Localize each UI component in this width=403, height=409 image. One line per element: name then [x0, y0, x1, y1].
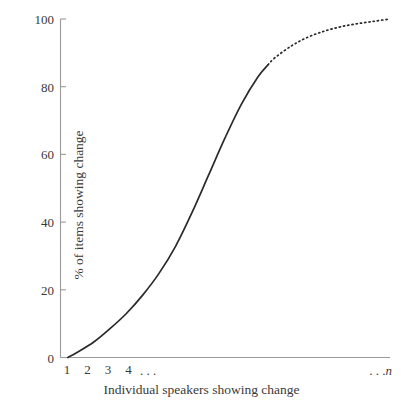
plot-area — [0, 0, 403, 409]
y-axis-title: % of items showing change — [71, 130, 87, 279]
x-axis-tick-label: 3 — [105, 363, 112, 376]
y-axis-tick-label: 0 — [10, 351, 54, 364]
x-axis-tick-label: 2 — [84, 363, 91, 376]
x-axis-end-label: . . .n — [369, 363, 392, 379]
y-axis-ticks — [61, 19, 67, 358]
x-axis-ellipsis-label: . . . — [140, 363, 156, 379]
x-axis-tick-label: 4 — [125, 363, 132, 376]
y-axis-tick-label: 60 — [10, 148, 54, 161]
s-curve-chart: 020406080100 1234 . . . . . .n % of item… — [0, 0, 403, 409]
x-axis-title: Individual speakers showing change — [0, 382, 403, 398]
x-axis-end-ellipsis: . . . — [369, 363, 385, 378]
axes-group — [61, 19, 391, 358]
x-axis-end-symbol-n: n — [386, 363, 393, 378]
y-axis-tick-label: 100 — [10, 13, 54, 26]
y-axis-tick-label: 80 — [10, 80, 54, 93]
curve-dotted-segment — [268, 19, 390, 65]
y-axis-tick-label: 40 — [10, 216, 54, 229]
x-axis-tick-label: 1 — [64, 363, 71, 376]
curve-solid-segment — [68, 65, 268, 358]
y-axis-tick-label: 20 — [10, 283, 54, 296]
